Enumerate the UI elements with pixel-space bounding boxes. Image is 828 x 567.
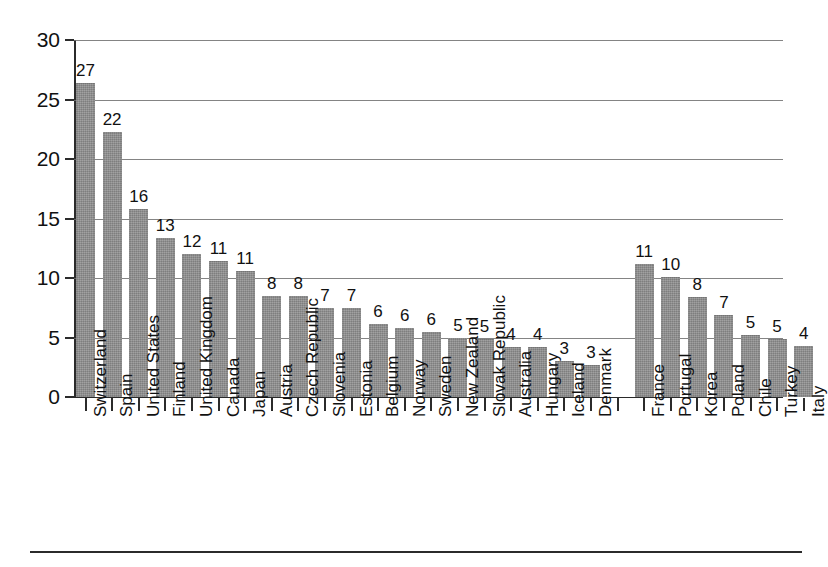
x-label-belgium: Belgium — [384, 356, 402, 417]
x-tick-belgium — [377, 398, 379, 411]
x-label-canada: Canada — [225, 357, 243, 417]
y-tick-label-10: 10 — [0, 267, 60, 288]
x-label-sweden: Sweden — [437, 356, 455, 417]
x-tick-portugal — [670, 398, 672, 411]
x-label-estonia: Estonia — [358, 360, 376, 417]
x-label-korea: Korea — [703, 372, 721, 417]
y-tick-label-25: 25 — [0, 89, 60, 110]
x-tick-sweden — [430, 398, 432, 411]
x-label-austria: Austria — [278, 364, 296, 417]
x-label-slovenia: Slovenia — [331, 352, 349, 417]
bottom-rule — [30, 551, 802, 553]
x-tick-spain — [111, 398, 113, 411]
bar-value-switzerland: 27 — [71, 62, 101, 79]
plot-area — [74, 40, 783, 397]
y-tick-label-30: 30 — [0, 29, 60, 50]
x-label-czech-republic: Czech Republic — [304, 298, 322, 417]
x-tick-norway — [404, 398, 406, 411]
y-tick-0 — [65, 396, 74, 398]
y-tick-label-15: 15 — [0, 208, 60, 229]
bar-value-turkey: 5 — [762, 318, 792, 335]
x-tick-korea — [696, 398, 698, 411]
x-label-turkey: Turkey — [783, 366, 801, 417]
x-tick-hungary — [537, 398, 539, 411]
y-tick-label-0: 0 — [0, 386, 60, 407]
x-label-finland: Finland — [171, 361, 189, 417]
bar-value-japan: 11 — [230, 250, 260, 267]
bar-value-italy: 4 — [789, 325, 819, 342]
bar-value-korea: 8 — [682, 276, 712, 293]
x-tick-iceland — [563, 398, 565, 411]
x-tick-denmark — [590, 398, 592, 411]
x-tick-austria — [271, 398, 273, 411]
x-label-united-states: United States — [145, 315, 163, 417]
y-tick-20 — [65, 158, 74, 160]
x-label-united-kingdom: United Kingdom — [198, 296, 216, 417]
bar-value-austria: 8 — [257, 275, 287, 292]
x-tick-japan — [244, 398, 246, 411]
x-label-new-zealand: New Zealand — [464, 317, 482, 417]
x-tick-slovenia — [324, 398, 326, 411]
x-tick-united-states — [138, 398, 140, 411]
x-tick-canada — [218, 398, 220, 411]
x-tick-finland — [164, 398, 166, 411]
bar-value-hungary: 4 — [523, 326, 553, 343]
y-tick-10 — [65, 277, 74, 279]
x-tick-italy — [803, 398, 805, 411]
y-tick-25 — [65, 99, 74, 101]
bar-value-france: 11 — [629, 243, 659, 260]
x-label-denmark: Denmark — [597, 348, 615, 417]
x-tick-switzerland — [85, 398, 87, 411]
x-label-japan: Japan — [251, 371, 269, 417]
x-label-france: France — [650, 364, 668, 417]
x-tick-czech-republic — [297, 398, 299, 411]
x-label-portugal: Portugal — [677, 354, 695, 417]
bar-value-chile: 5 — [736, 314, 766, 331]
x-label-poland: Poland — [730, 364, 748, 417]
bar-value-czech-republic: 8 — [283, 275, 313, 292]
bar-value-sweden: 6 — [416, 311, 446, 328]
x-label-italy: Italy — [810, 386, 828, 417]
x-tick-australia — [510, 398, 512, 411]
bar-value-spain: 22 — [97, 111, 127, 128]
x-tick-gap — [617, 398, 619, 411]
bar-value-portugal: 10 — [656, 256, 686, 273]
bar-value-united-states: 16 — [124, 188, 154, 205]
x-tick-new-zealand — [457, 398, 459, 411]
bar-value-finland: 13 — [150, 217, 180, 234]
x-tick-france — [643, 398, 645, 411]
x-label-hungary: Hungary — [544, 353, 562, 417]
bar-value-estonia: 7 — [337, 287, 367, 304]
x-label-iceland: Iceland — [570, 362, 588, 417]
y-tick-label-5: 5 — [0, 327, 60, 348]
x-tick-united-kingdom — [191, 398, 193, 411]
y-tick-label-20: 20 — [0, 148, 60, 169]
x-label-spain: Spain — [118, 374, 136, 417]
bar-value-united-kingdom: 12 — [177, 233, 207, 250]
x-label-slovak-republic: Slovak Republic — [491, 295, 509, 417]
bar-value-norway: 6 — [390, 307, 420, 324]
y-tick-30 — [65, 39, 74, 41]
y-tick-15 — [65, 218, 74, 220]
x-label-australia: Australia — [517, 351, 535, 417]
bar-value-canada: 11 — [204, 240, 234, 257]
y-tick-5 — [65, 337, 74, 339]
bar-value-belgium: 6 — [363, 303, 393, 320]
bar-value-poland: 7 — [709, 294, 739, 311]
x-tick-slovak-republic — [484, 398, 486, 411]
x-tick-turkey — [776, 398, 778, 411]
x-tick-poland — [723, 398, 725, 411]
x-tick-chile — [750, 398, 752, 411]
x-tick-estonia — [351, 398, 353, 411]
x-label-switzerland: Switzerland — [92, 329, 110, 417]
x-label-chile: Chile — [757, 378, 775, 417]
x-label-norway: Norway — [411, 359, 429, 417]
